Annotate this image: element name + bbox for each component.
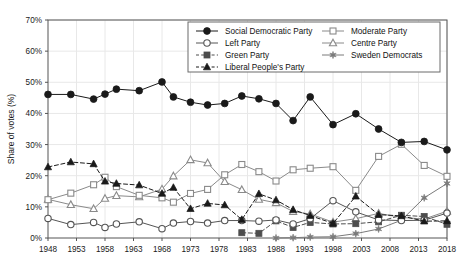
- x-tick-label: 1948: [39, 245, 58, 254]
- data-point-marker: [239, 230, 245, 236]
- data-point-marker: [444, 146, 451, 153]
- legend-label: Centre Party: [351, 39, 398, 48]
- data-point-marker: [222, 172, 228, 178]
- legend-marker-open-square-icon: [330, 28, 336, 34]
- x-tick-label: 1978: [210, 245, 229, 254]
- data-point-marker: [398, 139, 405, 146]
- data-point-marker: [239, 162, 245, 168]
- y-tick-label: 40%: [26, 109, 42, 118]
- x-tick-label: 1953: [67, 245, 86, 254]
- x-tick-label: 1958: [96, 245, 115, 254]
- data-point-marker: [238, 93, 245, 100]
- data-point-marker: [170, 220, 176, 226]
- data-point-marker: [113, 86, 120, 93]
- y-tick-label: 0%: [30, 234, 42, 243]
- data-point-marker: [256, 169, 262, 175]
- x-tick-label: 1973: [181, 245, 200, 254]
- data-point-marker: [204, 220, 210, 226]
- data-point-marker: [90, 219, 96, 225]
- data-point-marker: [273, 100, 280, 107]
- y-tick-label: 70%: [26, 16, 42, 25]
- legend-label: Moderate Party: [351, 27, 408, 36]
- data-point-marker: [353, 209, 359, 215]
- legend-label: Left Party: [225, 39, 261, 48]
- legend-marker-open-circle-icon: [204, 40, 210, 46]
- data-point-marker: [307, 165, 313, 171]
- y-tick-label: 20%: [26, 172, 42, 181]
- data-point-marker: [421, 138, 428, 145]
- data-point-marker: [221, 100, 228, 107]
- data-point-marker: [188, 190, 194, 196]
- data-point-marker: [222, 217, 228, 223]
- data-point-marker: [444, 210, 450, 216]
- data-point-marker: [421, 162, 427, 168]
- data-point-marker: [102, 224, 108, 230]
- y-tick-label: 60%: [26, 47, 42, 56]
- data-point-marker: [376, 153, 382, 159]
- data-point-marker: [90, 96, 97, 103]
- y-tick-label: 30%: [26, 141, 42, 150]
- chart-container: 0%10%20%30%40%50%60%70% 1948195319581963…: [0, 0, 465, 274]
- x-tick-label: 1993: [295, 245, 314, 254]
- data-point-marker: [353, 221, 359, 227]
- data-point-marker: [45, 91, 52, 98]
- data-point-marker: [205, 186, 211, 192]
- data-point-marker: [330, 121, 337, 128]
- x-tick-label: 1988: [267, 245, 286, 254]
- data-point-marker: [91, 182, 97, 188]
- x-tick-label: 2013: [409, 245, 428, 254]
- data-point-marker: [45, 215, 51, 221]
- legend-marker-filled-circle-icon: [204, 28, 211, 35]
- data-point-marker: [273, 178, 279, 184]
- data-point-marker: [136, 87, 143, 94]
- data-point-marker: [136, 219, 142, 225]
- data-point-marker: [307, 94, 314, 101]
- data-point-marker: [273, 217, 279, 223]
- data-point-marker: [170, 94, 177, 101]
- data-point-marker: [159, 79, 166, 86]
- chart-legend: Social Democratic PartyLeft PartyGreen P…: [188, 22, 440, 72]
- y-axis-title: Share of votes (%): [6, 94, 16, 165]
- x-tick-label: 1983: [238, 245, 257, 254]
- data-point-marker: [256, 95, 263, 102]
- data-point-marker: [67, 91, 74, 98]
- data-point-marker: [113, 221, 119, 227]
- votes-share-line-chart: 0%10%20%30%40%50%60%70% 1948195319581963…: [0, 0, 465, 274]
- data-point-marker: [444, 173, 450, 179]
- data-point-marker: [159, 225, 165, 231]
- data-point-marker: [187, 99, 194, 106]
- legend-label: Green Party: [225, 51, 270, 60]
- x-tick-label: 2018: [438, 245, 457, 254]
- y-axis-label: Share of votes (%): [6, 94, 16, 165]
- data-point-marker: [256, 218, 262, 224]
- legend-marker-filled-square-icon: [204, 52, 210, 58]
- data-point-marker: [256, 230, 262, 236]
- data-point-marker: [136, 192, 142, 198]
- data-point-marker: [290, 167, 296, 173]
- data-point-marker: [45, 197, 51, 203]
- y-tick-label: 50%: [26, 78, 42, 87]
- data-point-marker: [68, 221, 74, 227]
- data-point-marker: [290, 221, 296, 227]
- x-tick-label: 1963: [124, 245, 143, 254]
- data-point-marker: [330, 164, 336, 170]
- data-point-marker: [352, 110, 359, 117]
- legend-label: Liberal People's Party: [225, 63, 305, 72]
- data-point-marker: [187, 218, 193, 224]
- data-point-marker: [204, 102, 211, 109]
- x-tick-label: 2003: [352, 245, 371, 254]
- data-point-marker: [330, 197, 336, 203]
- y-tick-label: 10%: [26, 203, 42, 212]
- legend-label: Social Democratic Party: [225, 27, 313, 36]
- x-tick-label: 2008: [381, 245, 400, 254]
- legend-label: Sweden Democrats: [351, 51, 422, 60]
- data-point-marker: [68, 190, 74, 196]
- data-point-marker: [170, 199, 176, 205]
- x-tick-label: 1998: [324, 245, 343, 254]
- data-point-marker: [290, 117, 297, 124]
- data-point-marker: [102, 91, 109, 98]
- data-point-marker: [375, 126, 382, 133]
- x-tick-label: 1968: [153, 245, 172, 254]
